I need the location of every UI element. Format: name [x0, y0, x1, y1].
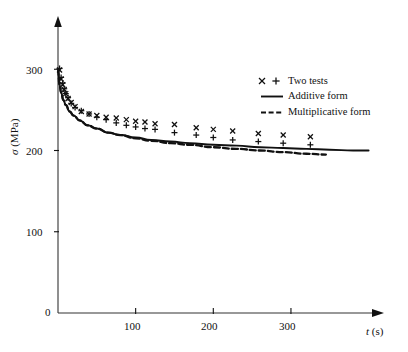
data-point-plus — [307, 142, 313, 148]
data-point-x — [308, 134, 313, 139]
series-multiplicative-form — [58, 69, 326, 154]
data-point-plus — [171, 130, 177, 136]
data-point-x — [211, 127, 216, 132]
y-tick-label-0: 0 — [45, 306, 51, 318]
data-point-plus — [123, 122, 129, 128]
legend-label-two-tests: Two tests — [288, 75, 328, 86]
y-axis-title: σ (MPa) — [8, 119, 20, 155]
data-point-plus — [210, 135, 216, 141]
data-point-x — [153, 121, 158, 126]
data-point-x — [194, 125, 199, 130]
data-point-plus — [94, 114, 100, 120]
creep-relaxation-chart: 300 200 100 0 100 200 300 σ (MPa) t (s) … — [0, 0, 408, 352]
series-test-2-marker — [57, 65, 314, 147]
data-point-x — [172, 122, 177, 127]
data-point-x — [124, 117, 129, 122]
data-point-x — [133, 119, 138, 124]
data-point-x — [142, 120, 147, 125]
x-axis-arrowhead — [372, 309, 384, 317]
y-axis-symbol: σ — [8, 150, 20, 155]
y-tick-label-200: 200 — [26, 145, 43, 157]
legend-marker-plus — [272, 77, 279, 84]
data-point-plus — [133, 124, 139, 130]
curve-multiplicative — [58, 69, 326, 154]
data-point-x — [256, 131, 261, 136]
data-point-plus — [255, 139, 261, 145]
y-axis-unit: (MPa) — [8, 119, 20, 150]
legend-marker-x — [259, 78, 265, 84]
x-tick-label-300: 300 — [279, 320, 296, 332]
data-point-plus — [193, 132, 199, 138]
y-tick-label-100: 100 — [26, 226, 43, 238]
axis-lines — [54, 16, 384, 317]
data-point-plus — [152, 126, 158, 132]
x-tick-label-200: 200 — [201, 320, 218, 332]
y-axis-arrowhead — [54, 16, 62, 27]
x-axis-unit: (s) — [369, 325, 383, 337]
data-point-x — [114, 116, 119, 121]
data-point-plus — [280, 140, 286, 146]
axis-tick-marks — [54, 69, 291, 314]
data-point-x — [281, 133, 286, 138]
data-point-x — [230, 129, 235, 134]
data-point-plus — [103, 117, 109, 123]
data-point-plus — [230, 137, 236, 143]
x-axis-title: t (s) — [366, 325, 383, 337]
legend-label-multiplicative: Multiplicative form — [288, 106, 371, 117]
x-tick-label-100: 100 — [124, 320, 141, 332]
legend-glyphs — [259, 77, 283, 112]
y-tick-label-300: 300 — [26, 64, 43, 76]
data-point-plus — [142, 126, 148, 132]
legend-label-additive: Additive form — [288, 90, 348, 101]
chart-plot-area — [0, 0, 408, 352]
